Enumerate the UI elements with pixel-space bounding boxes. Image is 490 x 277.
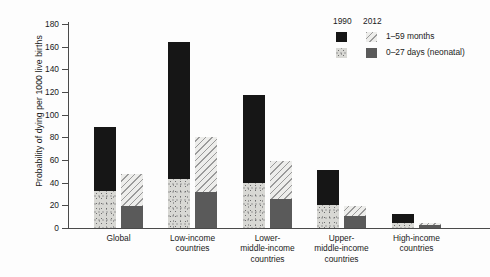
legend-swatch-2012-0-27-days	[366, 48, 377, 58]
y-axis-tick-label-60: 60	[33, 155, 59, 165]
bar-upper-middle-income-2012-0-27-days	[344, 216, 366, 228]
y-axis-tick-60	[62, 160, 69, 161]
y-axis-tick-label-180: 180	[33, 19, 59, 29]
y-axis-tick-label-160: 160	[33, 42, 59, 52]
bar-low-income-1990-1-59-months	[168, 42, 190, 179]
legend-label-0-27-days: 0–27 days (neonatal)	[386, 47, 465, 57]
bar-global-2012-0-27-days	[121, 206, 143, 228]
bar-upper-middle-income-1990-0-27-days	[317, 205, 339, 228]
legend-swatch-1990-0-27-days	[336, 48, 347, 58]
y-axis-tick-label-80: 80	[33, 132, 59, 142]
y-axis-tick-180	[62, 24, 69, 25]
y-axis-tick-label-40: 40	[33, 178, 59, 188]
x-axis-label-high-income: High-incomecountries	[372, 233, 462, 254]
bar-low-income-1990-0-27-days	[168, 179, 190, 228]
bar-lower-middle-income-1990-0-27-days	[243, 183, 265, 228]
y-axis-tick-label-140: 140	[33, 64, 59, 74]
legend-swatch-2012-1-59-months	[366, 32, 377, 42]
y-axis-tick-40	[62, 183, 69, 184]
bar-lower-middle-income-2012-1-59-months	[270, 161, 292, 198]
legend-swatch-1990-1-59-months	[336, 32, 347, 42]
y-axis-tick-label-120: 120	[33, 87, 59, 97]
x-axis-line	[68, 228, 490, 229]
y-axis-tick-label-20: 20	[33, 200, 59, 210]
y-axis-tick-160	[62, 47, 69, 48]
y-axis-line	[68, 22, 69, 229]
legend-label-1-59-months: 1–59 months	[386, 31, 434, 41]
legend-year-1990: 1990	[333, 16, 352, 26]
bar-low-income-2012-0-27-days	[195, 192, 217, 228]
bar-high-income-1990-0-27-days	[392, 223, 414, 228]
bar-lower-middle-income-2012-0-27-days	[270, 199, 292, 228]
y-axis-tick-120	[62, 92, 69, 93]
bar-high-income-1990-1-59-months	[392, 214, 414, 223]
bar-global-1990-0-27-days	[94, 191, 116, 228]
x-axis-label-upper-middle-income-line-3: countries	[297, 254, 387, 264]
y-axis-tick-label-0: 0	[33, 223, 59, 233]
bar-lower-middle-income-1990-1-59-months	[243, 95, 265, 182]
y-axis-tick-20	[62, 205, 69, 206]
bar-global-1990-1-59-months	[94, 127, 116, 190]
bar-high-income-2012-0-27-days	[419, 225, 441, 228]
x-axis-label-high-income-line-1: High-income	[372, 233, 462, 243]
bar-upper-middle-income-1990-1-59-months	[317, 170, 339, 205]
x-axis-label-high-income-line-2: countries	[372, 243, 462, 253]
y-axis-tick-100	[62, 115, 69, 116]
bar-upper-middle-income-2012-1-59-months	[344, 206, 366, 215]
legend-year-2012: 2012	[363, 16, 382, 26]
y-axis-tick-label-100: 100	[33, 110, 59, 120]
child-mortality-chart: Probability of dying per 1000 live birth…	[0, 0, 490, 277]
y-axis-tick-140	[62, 69, 69, 70]
bar-low-income-2012-1-59-months	[195, 137, 217, 191]
bar-global-2012-1-59-months	[121, 174, 143, 207]
y-axis-tick-80	[62, 137, 69, 138]
